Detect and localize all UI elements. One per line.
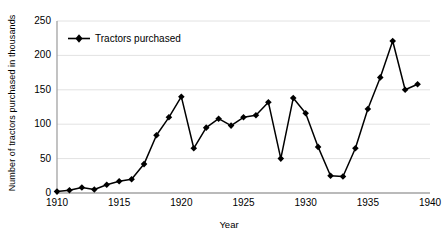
legend-marker-icon [68,33,90,44]
data-point-marker [365,106,372,113]
chart-legend: Tractors purchased [68,33,181,44]
data-point-marker [79,184,86,191]
x-axis-title-text: Year [219,219,238,230]
data-point-marker [91,186,98,193]
data-point-marker [327,173,334,180]
data-point-marker [54,188,61,195]
chart-container: Number of tractors purchased in thousand… [0,0,442,246]
data-point-marker [402,87,409,94]
data-point-marker [178,93,185,100]
data-point-marker [315,144,322,151]
data-point-marker [414,81,421,88]
data-point-marker [278,155,285,162]
data-point-marker [116,178,123,185]
data-point-marker [377,74,384,81]
data-point-marker [352,145,359,152]
legend-label-tractors-purchased: Tractors purchased [95,33,181,44]
data-point-marker [389,38,396,45]
data-point-marker [190,145,197,152]
data-point-marker [340,173,347,180]
plot-area [0,0,442,246]
x-axis-title: Year [0,219,442,230]
data-point-marker [103,181,110,188]
series-line-0 [57,41,418,192]
